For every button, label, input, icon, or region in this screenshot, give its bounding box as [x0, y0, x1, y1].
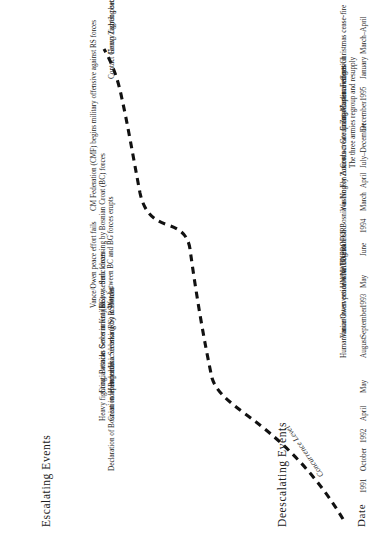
date-cell: March–April: [360, 16, 368, 54]
date-cell: April: [360, 406, 368, 421]
timeline-figure: Concurrence Level Date 1991 October 1992…: [0, 0, 381, 541]
date-cell: 1994: [360, 219, 368, 233]
concurrence-level-line: [104, 49, 343, 519]
date-cell: October: [360, 448, 368, 471]
escalating-event-line: War between BC and BG forces erupts: [107, 153, 116, 308]
date-cell: August: [360, 337, 368, 358]
deescalating-event-line: The three armies regroup and resupply: [349, 57, 358, 168]
concurrence-curve-svg: [0, 0, 381, 541]
escalating-events-header: Escalating Events: [40, 435, 52, 527]
escalating-event-item: Heavy fighting between CMF and RS forces: [108, 0, 117, 54]
date-column-header: Date: [355, 504, 367, 527]
escalating-event-line: CM Federation (CMF) begins military offe…: [90, 20, 99, 211]
date-cell: 1992: [360, 429, 368, 443]
deescalating-events-header: Deescalating Events: [276, 422, 288, 527]
date-cell: May: [360, 380, 368, 393]
date-cell: 1991: [360, 479, 368, 493]
deescalating-event-item: Jimmy Carter arranges Christmas cease-fi…: [340, 5, 349, 131]
concurrence-curve-layer: Concurrence Level: [0, 0, 381, 541]
date-cell: 1995: [360, 87, 368, 101]
escalating-event-line: Heavy ethnic cleansing by Bosnian Croat …: [99, 153, 108, 308]
date-cell: May: [360, 275, 368, 288]
date-cell: 1993: [360, 294, 368, 308]
date-cell: January: [360, 57, 368, 79]
date-cell: December: [360, 101, 368, 131]
date-cell: June: [360, 243, 368, 256]
date-cell: March: [360, 192, 368, 211]
escalating-event-line: Heavy fighting between CMF and RS forces: [108, 0, 117, 54]
escalating-event-item: CM Federation (CMF) begins military offe…: [90, 20, 99, 211]
date-cell: September: [360, 307, 368, 338]
concurrence-level-label: Concurrence Level: [283, 424, 325, 479]
date-cell: April: [360, 173, 368, 188]
deescalating-event-line: Jimmy Carter arranges Christmas cease-fi…: [340, 5, 349, 131]
